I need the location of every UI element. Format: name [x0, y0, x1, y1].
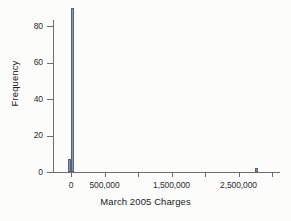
- x-tick-mark-500000: [105, 172, 106, 177]
- y-axis-title: Frequency: [9, 44, 20, 124]
- x-axis-title: March 2005 Charges: [0, 196, 291, 207]
- y-tick-mark-80: [47, 26, 53, 27]
- x-tick-mark-3000000: [272, 172, 273, 177]
- y-tick-mark-20: [47, 136, 53, 137]
- y-tick-mark-60: [47, 63, 53, 64]
- x-tick-label-500000: 500,000: [89, 180, 119, 190]
- histogram-chart: 0 20 40 60 80 0 500,000 1,500,000 2,500,…: [0, 0, 291, 221]
- x-tick-mark-0: [71, 172, 72, 177]
- x-tick-label-2500000: 2,500,000: [220, 180, 257, 190]
- histogram-bar: [71, 8, 74, 172]
- x-tick-mark-1000000: [138, 172, 139, 177]
- y-tick-label-20: 20: [34, 131, 43, 140]
- histogram-bar: [255, 168, 258, 173]
- y-axis-line: [53, 20, 54, 173]
- x-tick-label-1500000: 1,500,000: [153, 180, 190, 190]
- x-tick-label-0: 0: [69, 180, 74, 190]
- y-tick-label-0: 0: [38, 168, 43, 177]
- y-tick-label-80: 80: [34, 22, 43, 31]
- x-axis-line: [53, 172, 280, 173]
- x-tick-mark-1500000: [172, 172, 173, 177]
- y-tick-label-60: 60: [34, 58, 43, 67]
- y-tick-mark-0: [47, 172, 53, 173]
- x-tick-mark-2500000: [239, 172, 240, 177]
- x-tick-mark-2000000: [205, 172, 206, 177]
- y-tick-label-40: 40: [34, 95, 43, 104]
- y-tick-mark-40: [47, 99, 53, 100]
